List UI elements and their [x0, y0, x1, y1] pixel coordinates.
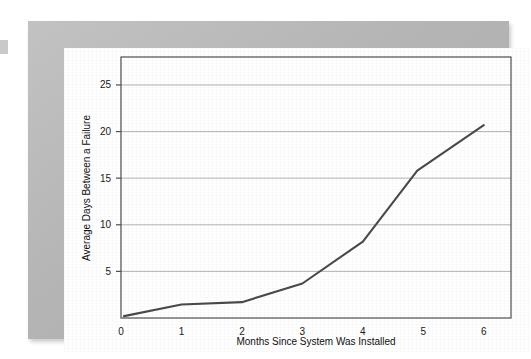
y-tick-marks: [116, 85, 121, 271]
line-chart: 510152025 0123456 Months Since System Wa…: [64, 48, 530, 352]
page-edge-sliver: [0, 40, 8, 54]
x-tick-label-0: 0: [118, 326, 124, 337]
plot-background: [121, 57, 511, 318]
x-axis-title: Months Since System Was Installed: [236, 336, 395, 347]
figure-mount: 510152025 0123456 Months Since System Wa…: [28, 21, 509, 339]
x-tick-label-5: 5: [421, 326, 427, 337]
page-root: 510152025 0123456 Months Since System Wa…: [0, 0, 531, 359]
y-tick-label-20: 20: [100, 126, 112, 137]
x-tick-label-1: 1: [179, 326, 185, 337]
y-axis-title: Average Days Between a Failure: [81, 115, 92, 261]
chart-card: 510152025 0123456 Months Since System Wa…: [64, 48, 530, 352]
y-tick-label-25: 25: [100, 79, 112, 90]
y-tick-label-10: 10: [100, 219, 112, 230]
y-tick-label-5: 5: [105, 266, 111, 277]
y-tick-label-15: 15: [100, 173, 112, 184]
y-tick-labels: 510152025: [100, 79, 112, 276]
x-tick-label-6: 6: [481, 326, 487, 337]
chart-area: 510152025 0123456 Months Since System Wa…: [64, 48, 530, 352]
